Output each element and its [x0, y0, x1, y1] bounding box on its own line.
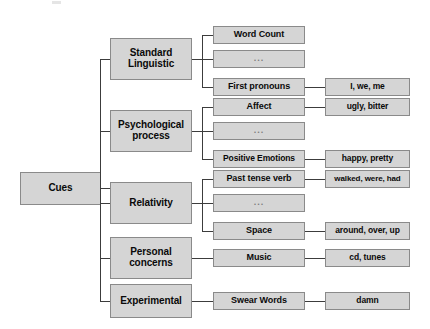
- node-example-first-pronouns: I, we, me: [325, 78, 410, 96]
- edge-category-1-branch: [202, 107, 203, 159]
- edge-sub-space-to-example: [305, 231, 326, 232]
- edge-sub-first-pronouns-to-example: [305, 87, 326, 88]
- diagram-canvas: Cues Standard Linguistic Word Count ... …: [0, 0, 430, 329]
- node-category-experimental: Experimental: [110, 284, 192, 318]
- node-sub-ellipsis-psychological-process: ...: [213, 122, 305, 140]
- node-example-past-tense-verb: walked, were, had: [325, 170, 410, 188]
- edge-sub-music-to-example: [305, 258, 326, 259]
- edge-category-4-to-sub-swear-words: [192, 301, 214, 302]
- scan-artifact: [52, 1, 61, 4]
- node-sub-ellipsis-relativity: ...: [213, 194, 305, 212]
- node-example-space: around, over, up: [325, 222, 410, 240]
- node-sub-ellipsis-standard-linguistic: ...: [213, 50, 305, 68]
- edge-category-0-branch: [202, 35, 203, 87]
- edge-sub-positive-emotions-to-example: [305, 159, 326, 160]
- edge-sub-affect-to-example: [305, 107, 326, 108]
- node-example-positive-emotions: happy, pretty: [325, 150, 410, 168]
- node-category-standard-linguistic: Standard Linguistic: [110, 38, 192, 80]
- edge-sub-swear-words-to-example: [305, 301, 326, 302]
- node-sub-affect: Affect: [213, 98, 305, 116]
- node-sub-music: Music: [213, 249, 305, 267]
- node-example-music: cd, tunes: [325, 249, 410, 267]
- node-example-affect: ugly, bitter: [325, 98, 410, 116]
- node-category-relativity: Relativity: [110, 182, 192, 224]
- node-category-personal-concerns: Personal concerns: [110, 237, 192, 279]
- node-sub-swear-words: Swear Words: [213, 292, 305, 310]
- edge-sub-past-tense-verb-to-example: [305, 179, 326, 180]
- edge-root-trunk: [100, 59, 101, 301]
- node-sub-space: Space: [213, 222, 305, 240]
- node-sub-first-pronouns: First pronouns: [213, 78, 305, 96]
- node-sub-past-tense-verb: Past tense verb: [213, 170, 305, 188]
- edge-category-2-branch: [202, 179, 203, 231]
- node-sub-positive-emotions: Positive Emotions: [213, 150, 305, 168]
- node-example-swear-words: damn: [325, 292, 410, 310]
- edge-category-3-to-sub-music: [192, 258, 214, 259]
- node-root-cues: Cues: [20, 172, 101, 205]
- node-category-psychological-process: Psychological process: [110, 110, 192, 152]
- node-sub-word-count: Word Count: [213, 26, 305, 44]
